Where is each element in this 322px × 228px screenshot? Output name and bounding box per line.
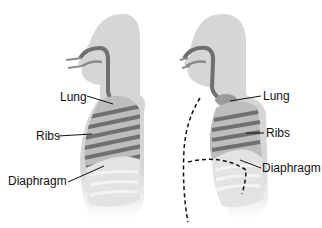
breathing-diagram: Lung Ribs Diaphragm Lung Ribs Diaphragm — [0, 0, 322, 228]
right-label-lung: Lung — [263, 89, 290, 103]
right-label-ribs: Ribs — [266, 126, 290, 140]
left-label-diaphragm: Diaphragm — [8, 174, 67, 188]
right-label-diaphragm: Diaphragm — [262, 161, 321, 175]
diagram-canvas: Lung Ribs Diaphragm Lung Ribs Diaphragm — [0, 0, 322, 228]
left-figure — [66, 14, 145, 220]
left-label-lung: Lung — [60, 90, 87, 104]
right-figure — [180, 14, 268, 222]
left-label-ribs: Ribs — [36, 129, 60, 143]
